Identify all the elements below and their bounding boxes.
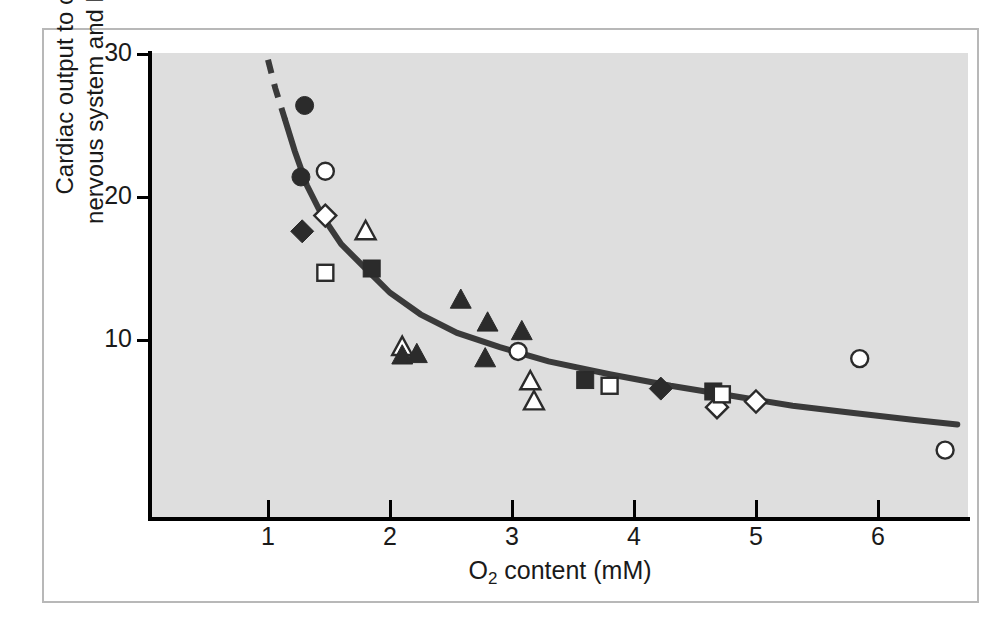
x-tick-2 (389, 500, 392, 518)
x-axis-title-post: content (mM) (497, 556, 651, 584)
figure-root: 102030 123456 O2 content (mM) Cardiac ou… (0, 0, 1006, 633)
x-axis-title-pre: O (468, 556, 487, 584)
x-tick-3 (511, 500, 514, 518)
y-tick-10 (137, 339, 149, 342)
x-tick-label-1: 1 (243, 524, 293, 549)
x-tick-label-2: 2 (365, 524, 415, 549)
y-tick-20 (137, 196, 149, 199)
x-axis-title: O2 content (mM) (152, 556, 968, 585)
y-axis-line (148, 51, 152, 521)
y-axis-title-line-1: Cardiac output to central (51, 0, 79, 299)
x-tick-label-3: 3 (487, 524, 537, 549)
y-tick-30 (137, 53, 149, 56)
x-tick-4 (633, 500, 636, 518)
x-tick-label-6: 6 (853, 524, 903, 549)
x-tick-6 (877, 500, 880, 518)
x-axis-line (148, 517, 970, 521)
x-tick-label-5: 5 (731, 524, 781, 549)
x-tick-5 (755, 500, 758, 518)
x-tick-1 (267, 500, 270, 518)
x-axis-title-subscript: 2 (488, 569, 497, 588)
x-tick-label-4: 4 (609, 524, 659, 549)
plot-panel (152, 53, 968, 519)
y-axis-title-line-2: nervous system and heart (%) (81, 0, 109, 299)
y-axis-title: Cardiac output to central nervous system… (0, 0, 120, 520)
